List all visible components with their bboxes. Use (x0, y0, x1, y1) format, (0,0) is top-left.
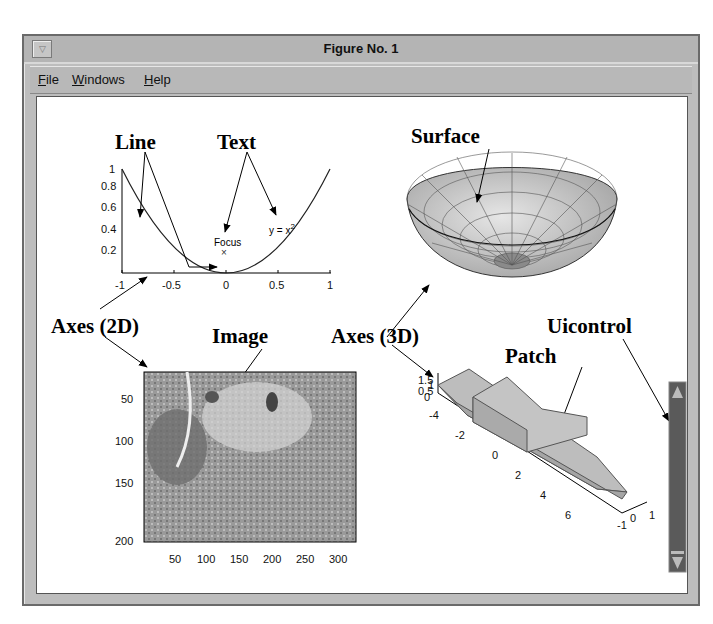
menu-help-mnemonic: H (144, 72, 153, 87)
uicontrol-slider[interactable] (669, 382, 686, 572)
menu-help-label: elp (153, 72, 170, 87)
x-tick: 2 (515, 469, 521, 481)
surface-plot (407, 152, 617, 277)
menu-windows-mnemonic: W (72, 72, 84, 87)
callout-axes-2d: Axes (2D) (51, 314, 139, 338)
slider-thumb[interactable] (671, 551, 684, 554)
x-tick: 4 (540, 489, 546, 501)
y-tick: 100 (115, 435, 133, 447)
callout-line: Line (115, 130, 156, 154)
line-plot-axes: -1 -0.5 0 0.5 1 0.2 0.4 0.6 0.8 1 y = x2… (101, 163, 333, 291)
y-tick: 0.8 (101, 180, 116, 192)
figure-window: ▽ Figure No. 1 File Windows Help (22, 34, 700, 606)
window-title: Figure No. 1 (24, 41, 698, 56)
x-tick: 100 (197, 553, 215, 565)
x-tick: -4 (429, 409, 439, 421)
x-tick: 0 (223, 279, 229, 291)
callout-uicontrol: Uicontrol (547, 314, 632, 338)
x-tick: -0.5 (162, 279, 181, 291)
x-tick: 1 (327, 279, 333, 291)
y-tick: 0.4 (101, 223, 116, 235)
menu-windows-label: indows (84, 72, 124, 87)
x-tick: 150 (230, 553, 248, 565)
menu-help[interactable]: Help (144, 72, 171, 87)
title-bar[interactable]: ▽ Figure No. 1 (24, 36, 698, 64)
y-tick: 1 (649, 509, 655, 521)
menu-file-label: ile (46, 72, 59, 87)
menu-windows[interactable]: Windows (72, 72, 125, 87)
y-tick: -1 (617, 519, 627, 531)
callout-patch: Patch (505, 344, 557, 368)
menu-file-mnemonic: F (38, 72, 46, 87)
z-tick: 0 (424, 391, 430, 403)
x-tick: -2 (455, 429, 465, 441)
y-tick: 50 (121, 393, 133, 405)
x-tick: 6 (565, 509, 571, 521)
x-tick: 300 (329, 553, 347, 565)
y-tick: 0 (630, 512, 636, 524)
menu-bar: File Windows Help (30, 66, 692, 94)
callout-text: Text (217, 130, 256, 154)
x-tick: -1 (115, 279, 125, 291)
x-tick: 200 (263, 553, 281, 565)
figure-canvas: -1 -0.5 0 0.5 1 0.2 0.4 0.6 0.8 1 y = x2… (36, 96, 688, 594)
callout-surface: Surface (411, 124, 480, 148)
patch-3d-axes: 1.5 1 0.5 0 -4 -2 0 2 4 6 -1 0 1 (418, 369, 655, 531)
curve-annotation: y = x2 (269, 222, 295, 236)
y-tick: 150 (115, 477, 133, 489)
focus-marker: × (221, 247, 227, 258)
y-tick: 1 (109, 163, 115, 175)
callout-image: Image (212, 324, 268, 348)
x-tick: 50 (169, 553, 181, 565)
y-tick: 200 (115, 535, 133, 547)
y-tick: 0.6 (101, 201, 116, 213)
menu-file[interactable]: File (38, 72, 59, 87)
callout-axes-3d: Axes (3D) (331, 324, 419, 348)
y-tick: 0.2 (101, 244, 116, 256)
image-axes: 50 100 150 200 50 100 150 200 250 300 (115, 372, 356, 565)
x-tick: 0 (492, 449, 498, 461)
x-tick: 0.5 (269, 279, 284, 291)
x-tick: 250 (296, 553, 314, 565)
focus-annotation: Focus (214, 237, 241, 248)
